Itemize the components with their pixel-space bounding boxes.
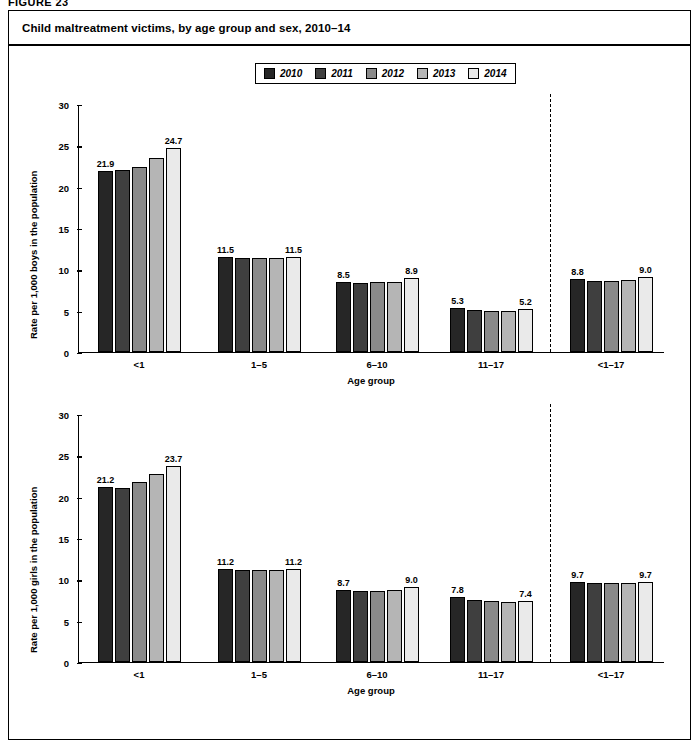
x-axis-line bbox=[78, 662, 664, 663]
bar-6–10-2014[interactable]: 8.9 bbox=[404, 278, 419, 352]
bar-<1–17-2013[interactable] bbox=[621, 280, 636, 352]
bar-1–5-2013[interactable] bbox=[269, 258, 284, 352]
bar-6–10-2010[interactable]: 8.7 bbox=[336, 590, 351, 662]
y-axis-tick bbox=[77, 146, 82, 147]
bar-<1-2014[interactable]: 24.7 bbox=[166, 148, 181, 352]
bar-1–5-2010[interactable]: 11.2 bbox=[218, 569, 233, 662]
figure-title: Child maltreatment victims, by age group… bbox=[22, 22, 350, 34]
bar-11–17-2014[interactable]: 5.2 bbox=[518, 309, 533, 352]
bar-<1-2012[interactable] bbox=[132, 482, 147, 661]
bar-11–17-2011[interactable] bbox=[467, 600, 482, 662]
y-axis-tick bbox=[77, 270, 82, 271]
y-axis-tick bbox=[77, 580, 82, 581]
y-axis-tick-label: 15 bbox=[58, 224, 69, 235]
bar-<1–17-2011[interactable] bbox=[587, 281, 602, 352]
bar-<1–17-2011[interactable] bbox=[587, 583, 602, 662]
bar-6–10-2011[interactable] bbox=[353, 591, 368, 662]
bar-value-label: 9.0 bbox=[639, 265, 652, 275]
bar-11–17-2012[interactable] bbox=[484, 311, 499, 352]
bar-<1-2010[interactable]: 21.2 bbox=[98, 487, 113, 662]
bar-group-bars: 21.924.7 bbox=[98, 104, 181, 352]
bar-11–17-2010[interactable]: 7.8 bbox=[450, 597, 465, 661]
bar-<1–17-2012[interactable] bbox=[604, 583, 619, 662]
y-axis-tick-label: 0 bbox=[64, 348, 69, 359]
bar-11–17-2013[interactable] bbox=[501, 311, 516, 352]
bar-1–5-2011[interactable] bbox=[235, 570, 250, 662]
bar-group-bars: 11.511.5 bbox=[218, 104, 301, 352]
bar-6–10-2012[interactable] bbox=[370, 591, 385, 662]
bar-<1-2010[interactable]: 21.9 bbox=[98, 171, 113, 352]
bar-6–10-2011[interactable] bbox=[353, 283, 368, 352]
bar-<1-2012[interactable] bbox=[132, 167, 147, 351]
bar-<1–17-2013[interactable] bbox=[621, 583, 636, 662]
legend-swatch-icon-2011 bbox=[315, 68, 326, 79]
bar-<1–17-2014[interactable]: 9.7 bbox=[638, 582, 653, 662]
bar-<1-2011[interactable] bbox=[115, 170, 130, 352]
y-axis-tick-label: 30 bbox=[58, 100, 69, 111]
chart-panel-girls: Rate per 1,000 girls in the population A… bbox=[0, 405, 699, 735]
x-axis-category-label: <1–17 bbox=[598, 669, 625, 680]
bar-group-bars: 7.87.4 bbox=[450, 414, 533, 662]
x-axis-category-label: 6–10 bbox=[366, 359, 387, 370]
bar-1–5-2012[interactable] bbox=[252, 570, 267, 662]
legend-label: 2013 bbox=[433, 69, 455, 79]
bar-6–10-2014[interactable]: 9.0 bbox=[404, 587, 419, 661]
bar-11–17-2013[interactable] bbox=[501, 602, 516, 662]
title-divider-rule bbox=[9, 44, 690, 46]
y-axis-tick-label: 10 bbox=[58, 575, 69, 586]
bar-value-label: 5.3 bbox=[451, 296, 464, 306]
bar-<1–17-2014[interactable]: 9.0 bbox=[638, 277, 653, 351]
legend-label: 2010 bbox=[280, 69, 302, 79]
bar-value-label: 9.7 bbox=[639, 570, 652, 580]
bar-<1–17-2012[interactable] bbox=[604, 281, 619, 352]
bar-11–17-2012[interactable] bbox=[484, 601, 499, 661]
bar-<1-2013[interactable] bbox=[149, 158, 164, 351]
legend-label: 2011 bbox=[331, 69, 353, 79]
y-axis-label-boys: Rate per 1,000 boys in the population bbox=[28, 171, 39, 339]
bar-<1-2014[interactable]: 23.7 bbox=[166, 466, 181, 662]
bar-11–17-2010[interactable]: 5.3 bbox=[450, 308, 465, 352]
y-axis-tick bbox=[77, 312, 82, 313]
legend-swatch-icon-2012 bbox=[366, 68, 377, 79]
bar-1–5-2010[interactable]: 11.5 bbox=[218, 257, 233, 352]
legend-swatch-icon-2014 bbox=[468, 68, 479, 79]
x-axis-category-label: <1–17 bbox=[598, 359, 625, 370]
bar-value-label: 24.7 bbox=[165, 136, 183, 146]
chart-legend: 20102011201220132014 bbox=[255, 63, 516, 84]
bar-6–10-2010[interactable]: 8.5 bbox=[336, 282, 351, 352]
bar-1–5-2014[interactable]: 11.2 bbox=[286, 569, 301, 662]
bar-11–17-2014[interactable]: 7.4 bbox=[518, 601, 533, 662]
x-axis-label-boys: Age group bbox=[78, 375, 664, 386]
x-axis-category-label: 6–10 bbox=[366, 669, 387, 680]
bar-1–5-2012[interactable] bbox=[252, 258, 267, 351]
bar-1–5-2013[interactable] bbox=[269, 570, 284, 662]
legend-item-2014: 2014 bbox=[468, 68, 506, 79]
y-axis-tick bbox=[77, 456, 82, 457]
y-axis-tick bbox=[77, 353, 82, 354]
bar-1–5-2011[interactable] bbox=[235, 258, 250, 352]
bar-<1–17-2010[interactable]: 9.7 bbox=[570, 582, 585, 662]
legend-label: 2014 bbox=[484, 69, 506, 79]
y-axis-tick-label: 25 bbox=[58, 451, 69, 462]
plot-area-boys: Age group 05101520253021.924.7<111.511.5… bbox=[78, 105, 664, 353]
x-axis-category-label: <1 bbox=[134, 359, 145, 370]
y-axis-tick-label: 5 bbox=[64, 616, 69, 627]
legend-label: 2012 bbox=[382, 69, 404, 79]
y-axis-tick-label: 15 bbox=[58, 534, 69, 545]
y-axis-tick bbox=[77, 188, 82, 189]
bar-value-label: 11.2 bbox=[285, 557, 302, 567]
y-axis-tick-label: 20 bbox=[58, 182, 69, 193]
bar-1–5-2014[interactable]: 11.5 bbox=[286, 257, 301, 352]
bar-6–10-2013[interactable] bbox=[387, 282, 402, 352]
x-axis-category-label: 11–17 bbox=[478, 359, 504, 370]
y-axis-tick bbox=[77, 415, 82, 416]
bar-6–10-2013[interactable] bbox=[387, 590, 402, 662]
bar-6–10-2012[interactable] bbox=[370, 282, 385, 351]
bar-<1-2013[interactable] bbox=[149, 474, 164, 662]
bar-11–17-2011[interactable] bbox=[467, 310, 482, 351]
y-axis-tick bbox=[77, 105, 82, 106]
bar-<1–17-2010[interactable]: 8.8 bbox=[570, 279, 585, 352]
bar-group-bars: 21.223.7 bbox=[98, 414, 181, 662]
bar-<1-2011[interactable] bbox=[115, 488, 130, 662]
bar-value-label: 8.9 bbox=[405, 266, 418, 276]
